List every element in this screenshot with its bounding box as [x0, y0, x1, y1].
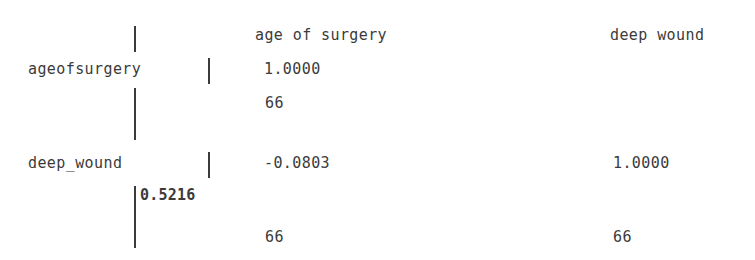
correlation-deep-wound-deep-wound: 1.0000 [613, 156, 670, 171]
row-separator-pipe-ageofsurgery [208, 58, 210, 84]
row-label-deep-wound: deep_wound [28, 156, 122, 171]
column-header-deep-wound: deep wound [610, 28, 704, 43]
frame-pipe-segment-lower [134, 186, 136, 248]
column-header-age-of-surgery: age of surgery [255, 28, 387, 43]
correlation-matrix-output: age of surgery deep wound ageofsurgery 1… [0, 0, 755, 260]
row-label-ageofsurgery: ageofsurgery [28, 62, 141, 77]
frame-pipe-segment-upper [134, 88, 136, 140]
correlation-ageofsurgery-age-of-surgery: 1.0000 [264, 62, 321, 77]
correlation-deep-wound-age-of-surgery: -0.0803 [264, 156, 330, 171]
observation-count-deep-wound-age-of-surgery: 66 [265, 230, 284, 245]
header-separator-pipe [134, 26, 136, 52]
observation-count-ageofsurgery-age-of-surgery: 66 [265, 96, 284, 111]
observation-count-deep-wound-deep-wound: 66 [613, 230, 632, 245]
row-separator-pipe-deep-wound [208, 152, 210, 178]
pvalue-deep-wound-age-of-surgery: 0.5216 [140, 188, 195, 203]
